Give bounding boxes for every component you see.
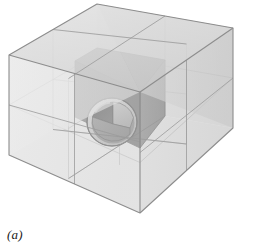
figure-caption: (a)	[7, 228, 23, 241]
figure-container: (a)	[0, 0, 259, 250]
unit-cell-diagram	[0, 0, 259, 250]
